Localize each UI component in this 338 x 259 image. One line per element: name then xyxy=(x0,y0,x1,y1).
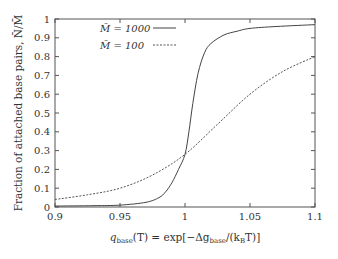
x-axis-ticks: 0.90.9511.051.1 xyxy=(47,19,323,222)
y-tick-label: 1 xyxy=(44,14,50,25)
series-m1000-line xyxy=(55,25,315,206)
x-tick-label: 0.9 xyxy=(47,211,63,222)
legend: M̄ = 1000 M̄ = 100 xyxy=(99,23,176,51)
legend-label-m100: M̄ = 100 xyxy=(99,40,145,51)
y-tick-label: 0.3 xyxy=(34,145,50,156)
y-tick-label: 0.2 xyxy=(34,164,50,175)
y-tick-label: 0.9 xyxy=(34,32,50,43)
plot-frame xyxy=(55,19,315,207)
x-axis-label: qbase(T) = exp[−Δgbase/(kBT)] xyxy=(110,231,261,245)
line-chart: 00.10.20.30.40.50.60.70.80.91 0.90.9511.… xyxy=(0,0,338,259)
y-tick-label: 0.5 xyxy=(34,108,50,119)
x-tick-label: 1.05 xyxy=(239,211,261,222)
y-axis-ticks: 00.10.20.30.40.50.60.70.80.91 xyxy=(34,14,315,213)
y-tick-label: 0.1 xyxy=(34,183,50,194)
series-m100-line xyxy=(55,57,315,200)
y-tick-label: 0.4 xyxy=(34,126,50,137)
x-tick-label: 1.1 xyxy=(307,211,323,222)
y-tick-label: 0.7 xyxy=(34,70,50,81)
y-tick-label: 0.8 xyxy=(34,51,50,62)
y-tick-label: 0.6 xyxy=(34,89,50,100)
legend-label-m1000: M̄ = 1000 xyxy=(99,23,151,34)
y-axis-label: Fraction of attached base pairs, N̄/M̄ xyxy=(12,14,24,211)
x-tick-label: 0.95 xyxy=(109,211,131,222)
x-tick-label: 1 xyxy=(182,211,188,222)
